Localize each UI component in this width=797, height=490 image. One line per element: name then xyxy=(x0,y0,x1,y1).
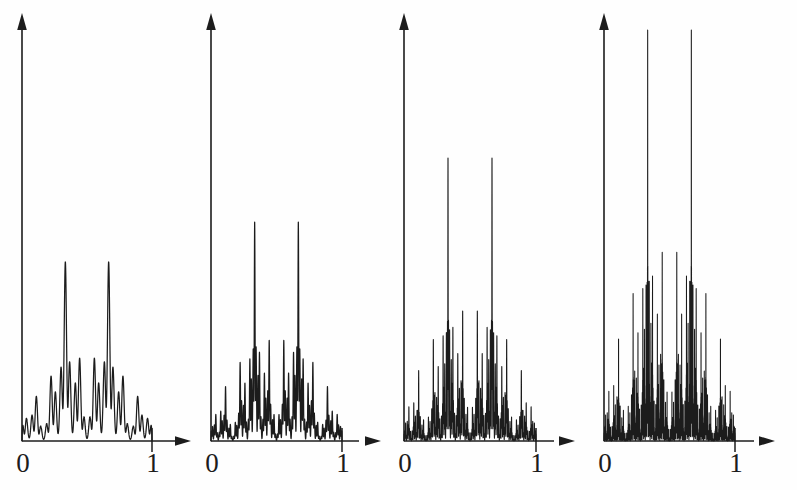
panel-1-label-one: 1 xyxy=(138,450,168,477)
panel-3-label-one: 1 xyxy=(522,450,552,477)
panel-1-label-zero: 0 xyxy=(8,450,38,477)
panel-1: 0 1 xyxy=(0,0,197,490)
panel-2-curve xyxy=(211,222,342,441)
panel-4: 0 1 xyxy=(582,0,797,490)
panel-4-label-one: 1 xyxy=(721,450,751,477)
panel-2-label-one: 1 xyxy=(328,450,358,477)
panel-1-plot xyxy=(0,0,197,490)
y-axis-arrow xyxy=(17,13,27,30)
panel-2-label-zero: 0 xyxy=(197,450,227,477)
x-axis-arrow xyxy=(365,436,381,446)
panel-3: 0 1 xyxy=(382,0,582,490)
panel-4-label-zero: 0 xyxy=(590,450,620,477)
y-axis-arrow xyxy=(599,13,609,30)
panel-4-curve xyxy=(604,30,735,441)
panel-4-plot xyxy=(582,0,797,490)
panel-1-curve xyxy=(22,262,152,441)
panel-2-plot xyxy=(189,0,386,490)
x-axis-arrow xyxy=(559,436,575,446)
panel-3-curve xyxy=(404,158,536,441)
panel-2: 0 1 xyxy=(189,0,386,490)
panel-3-plot xyxy=(382,0,582,490)
panel-1-axes xyxy=(17,13,191,452)
y-axis-arrow xyxy=(206,13,216,30)
x-axis-arrow xyxy=(759,436,775,446)
panel-3-label-zero: 0 xyxy=(390,450,420,477)
figure-four-panel-fractal-curves: 0 1 0 1 0 xyxy=(0,0,797,490)
y-axis-arrow xyxy=(399,13,409,30)
